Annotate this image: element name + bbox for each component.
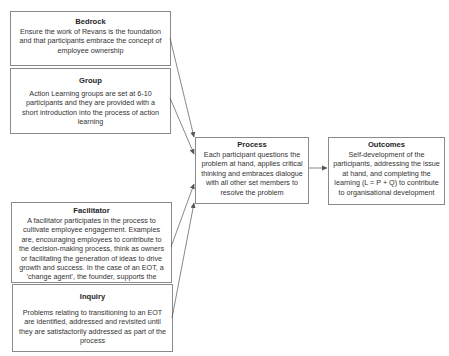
arrow-group-to-process (170, 98, 194, 154)
group-body: Action Learning groups are set at 6-10 p… (21, 89, 160, 127)
facilitator-node: Facilitator A facilitator participates i… (11, 202, 172, 283)
inquiry-node: Inquiry Problems relating to transitioni… (12, 284, 173, 352)
arrow-facilitator-to-process (171, 184, 194, 247)
outcomes-body: Self-development of the participants, ad… (333, 150, 440, 197)
arrow-inquiry-to-process (172, 203, 194, 318)
inquiry-title: Inquiry (18, 292, 167, 302)
outcomes-node: Outcomes Self-development of the partici… (328, 137, 445, 205)
group-title: Group (21, 76, 160, 86)
facilitator-body: A facilitator participates in the proces… (16, 216, 167, 291)
facilitator-title: Facilitator (16, 206, 167, 216)
inquiry-body: Problems relating to transitioning to an… (18, 308, 167, 346)
process-node: Process Each participant questions the p… (195, 137, 309, 204)
process-title: Process (200, 140, 304, 150)
bedrock-body: Ensure the work of Revans is the foundat… (17, 27, 164, 55)
process-body: Each participant questions the problem a… (200, 150, 304, 197)
arrow-bedrock-to-process (170, 38, 194, 137)
bedrock-title: Bedrock (17, 17, 164, 27)
bedrock-node: Bedrock Ensure the work of Revans is the… (10, 11, 171, 66)
group-node: Group Action Learning groups are set at … (10, 68, 171, 134)
outcomes-title: Outcomes (333, 140, 440, 150)
